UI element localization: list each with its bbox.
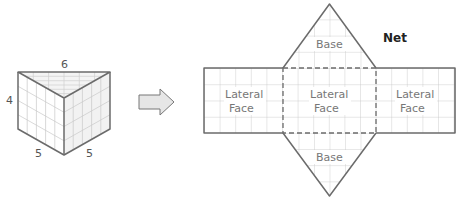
right-arrow-icon xyxy=(139,89,174,115)
dimension-top: 6 xyxy=(61,58,68,71)
net-base-top xyxy=(283,4,376,68)
label-left-lateral-2: Face xyxy=(229,102,254,115)
label-base-bottom: Base xyxy=(316,151,343,164)
label-base-top: Base xyxy=(316,38,343,51)
dimension-bottom-left: 5 xyxy=(35,147,42,160)
dimension-height: 4 xyxy=(6,94,13,107)
triangular-prism: 6 4 5 5 xyxy=(6,58,110,160)
prism-net: Base Base Lateral Face Lateral Face Late… xyxy=(204,4,455,196)
label-right-lateral-2: Face xyxy=(400,102,425,115)
dimension-bottom-right: 5 xyxy=(86,147,93,160)
net-base-bottom xyxy=(283,133,376,196)
label-middle-lateral-1: Lateral xyxy=(310,88,348,101)
net-title: Net xyxy=(383,31,407,45)
label-middle-lateral-2: Face xyxy=(314,102,339,115)
label-right-lateral-1: Lateral xyxy=(396,88,434,101)
label-left-lateral-1: Lateral xyxy=(225,88,263,101)
diagram-canvas: 6 4 5 5 Base Base Lateral Face xyxy=(0,0,462,204)
